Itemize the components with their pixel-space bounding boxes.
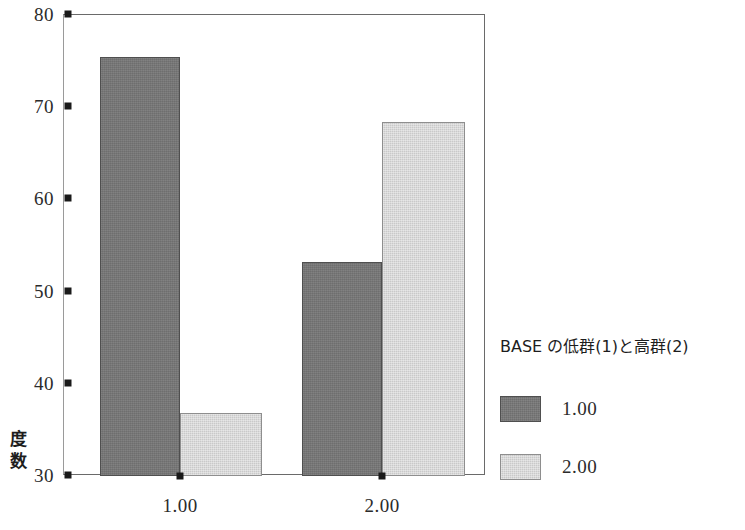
legend-swatch-series-1 [500,396,541,422]
bar-group-2-series-1 [302,262,382,476]
x-tick-label-1: 1.00 [162,495,197,517]
legend-swatch-series-2 [500,454,541,480]
y-axis-title-char-2: 数 [5,450,31,472]
y-tick-mark-40 [65,380,72,387]
bar-group-1-series-1 [100,57,180,476]
y-tick-label-60: 60 [14,189,54,208]
bar-group-2-series-2 [382,122,465,476]
y-tick-mark-30 [65,472,72,479]
y-tick-label-70: 70 [14,97,54,116]
legend: BASE の低群(1)と高群(2) 1.00 2.00 [500,333,740,357]
y-axis-title: 度 数 [5,428,31,472]
legend-label-series-2: 2.00 [562,456,597,478]
y-axis-title-char-1: 度 [5,428,31,450]
bar-chart: 80 70 60 50 40 30 度 数 1.00 2.00 BASE の低群… [0,0,745,530]
y-tick-mark-70 [65,103,72,110]
y-tick-mark-60 [65,195,72,202]
legend-title: BASE の低群(1)と高群(2) [500,333,740,357]
legend-entry-2: 2.00 [500,454,597,480]
legend-entry-1: 1.00 [500,396,597,422]
x-tick-mark-1 [177,473,184,480]
x-tick-mark-2 [379,473,386,480]
y-tick-label-80: 80 [14,5,54,24]
y-tick-mark-80 [65,11,72,18]
y-tick-label-50: 50 [14,282,54,301]
x-tick-label-2: 2.00 [364,495,399,517]
legend-label-series-1: 1.00 [562,398,597,420]
y-tick-mark-50 [65,288,72,295]
y-tick-label-40: 40 [14,374,54,393]
bar-group-1-series-2 [180,413,262,476]
